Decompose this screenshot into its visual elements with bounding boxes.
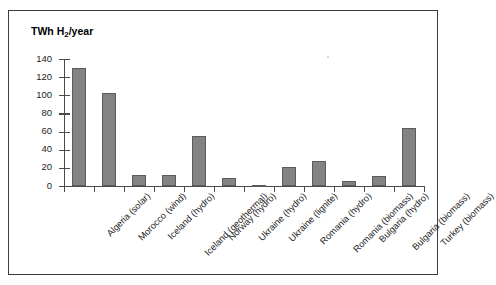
- bar: [102, 93, 116, 186]
- y-axis-tick-label: 60: [12, 125, 52, 136]
- y-axis-tick-label: 20: [12, 161, 52, 172]
- bar: [162, 175, 176, 186]
- y-axis-tick: 80: [59, 113, 70, 114]
- clipped-header-label: Potentials: [0, 0, 450, 2]
- bar: [342, 181, 356, 186]
- bar: [402, 128, 416, 186]
- y-axis-tick: 140: [59, 59, 70, 60]
- y-axis-tick: 100: [59, 95, 70, 96]
- y-axis-title-suffix: /year: [69, 25, 94, 37]
- chart-frame: TWh H2/year 020406080100120140 Algeria (…: [8, 10, 438, 275]
- bar-chart: TWh H2/year 020406080100120140 Algeria (…: [9, 11, 437, 274]
- y-axis-title-prefix: TWh H: [31, 25, 64, 37]
- bar: [252, 185, 266, 187]
- bar: [372, 176, 386, 186]
- plot-area: 020406080100120140: [64, 59, 424, 186]
- bar: [132, 175, 146, 186]
- bar: [192, 136, 206, 186]
- bar: [282, 167, 296, 186]
- y-axis-tick-label: 80: [12, 107, 52, 118]
- bar: [222, 178, 236, 186]
- y-axis-tick: 40: [59, 150, 70, 151]
- y-axis-tick: 120: [59, 77, 70, 78]
- y-axis-tick-label: 120: [12, 71, 52, 82]
- y-axis-tick-label: 40: [12, 143, 52, 154]
- x-axis-labels: Algeria (solar)Morocco (wind)Iceland (hy…: [64, 191, 424, 271]
- y-axis-title: TWh H2/year: [31, 25, 93, 39]
- y-axis-tick-label: 140: [12, 53, 52, 64]
- bar: [72, 68, 86, 186]
- scan-artifact: [327, 56, 329, 58]
- y-axis-tick: 20: [59, 168, 70, 169]
- y-axis-tick: 60: [59, 132, 70, 133]
- x-axis-line: [62, 186, 424, 187]
- bar: [312, 161, 326, 186]
- clipped-header-text: Potentials: [0, 0, 450, 7]
- y-axis-tick-label: 0: [12, 180, 52, 191]
- y-axis-tick-label: 100: [12, 89, 52, 100]
